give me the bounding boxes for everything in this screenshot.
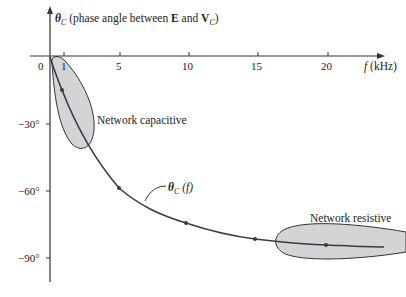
y-tick-label: −60° — [18, 185, 40, 197]
data-point — [117, 186, 121, 190]
x-tick-label: 10 — [182, 60, 194, 72]
data-point — [60, 88, 64, 92]
data-point — [253, 237, 257, 241]
resistive-region — [276, 224, 406, 259]
curve-label: θC (f) — [168, 181, 193, 196]
y-axis-arrow-icon — [47, 6, 53, 14]
x-tick-label: 0 — [38, 60, 44, 72]
x-axis-arrow-icon — [377, 53, 385, 59]
capacitive-annotation: Network capacitive — [97, 114, 187, 127]
x-tick-label: 5 — [116, 60, 122, 72]
x-axis-label: f (kHz) — [364, 60, 397, 73]
x-tick-label: 15 — [251, 60, 263, 72]
data-point — [184, 221, 188, 225]
x-tick-label: 1 — [61, 60, 67, 72]
y-tick-label: −90° — [18, 252, 40, 264]
y-axis-label: θC (phase angle between E and VC) — [55, 12, 219, 27]
capacitive-region — [52, 57, 94, 149]
data-points — [60, 88, 328, 247]
x-tick-label: 20 — [321, 60, 333, 72]
phase-angle-chart: 0 1 5 10 15 20 −30° −60° −90° θC (phase … — [0, 0, 406, 297]
y-tick-label: −30° — [18, 118, 40, 130]
data-point — [324, 243, 328, 247]
curve-label-leader — [145, 186, 166, 201]
resistive-annotation: Network resistive — [310, 212, 391, 224]
